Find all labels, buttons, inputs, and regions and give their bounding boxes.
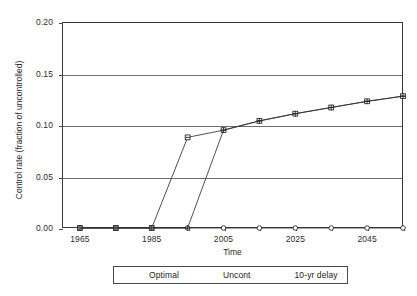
- legend-marker-cross-icon: [269, 271, 291, 280]
- plot-area: [62, 22, 403, 228]
- x-axis-tick: [117, 227, 118, 231]
- y-axis-tick: [59, 229, 63, 230]
- chart-figure: 0.000.050.100.150.20 1965198520052025204…: [0, 0, 417, 296]
- y-axis-tick: [59, 126, 63, 127]
- x-axis-tick-label: 2025: [286, 234, 305, 244]
- y-axis-tick-label: 0.20: [0, 17, 53, 27]
- y-axis-tick: [59, 178, 63, 179]
- gridline-horizontal: [63, 126, 402, 127]
- legend-item-label: 10-yr delay: [295, 270, 338, 280]
- x-axis-tick-label: 1985: [142, 234, 161, 244]
- y-axis-tick: [59, 23, 63, 24]
- legend-item-uncont[interactable]: Uncont: [197, 270, 251, 280]
- gridline-horizontal: [63, 178, 402, 179]
- x-axis-tick: [260, 227, 261, 231]
- x-axis-tick: [404, 227, 405, 231]
- x-axis-tick: [332, 227, 333, 231]
- x-axis-tick: [225, 227, 226, 231]
- x-axis-tick: [153, 227, 154, 231]
- y-axis-tick-label: 0.05: [0, 172, 53, 182]
- gridline-horizontal: [63, 75, 402, 76]
- x-axis-title: Time: [62, 247, 403, 257]
- legend-item-10-yr-delay[interactable]: 10-yr delay: [269, 270, 338, 280]
- x-axis-tick: [368, 227, 369, 231]
- legend-marker-square-icon: [123, 271, 145, 280]
- y-axis-tick-label: 0.00: [0, 223, 53, 233]
- legend-item-label: Optimal: [149, 270, 179, 280]
- y-axis-tick-label: 0.15: [0, 69, 53, 79]
- x-axis-tick-label: 2045: [357, 234, 376, 244]
- legend-item-optimal[interactable]: Optimal: [123, 270, 179, 280]
- y-axis-tick: [59, 75, 63, 76]
- legend-marker-circle-icon: [197, 271, 219, 280]
- y-axis-tick-label: 0.10: [0, 120, 53, 130]
- x-axis-tick-label: 1965: [70, 234, 89, 244]
- y-axis-title: Control rate (fraction of uncontrolled): [14, 27, 24, 233]
- x-axis-tick: [296, 227, 297, 231]
- chart-legend: OptimalUncont10-yr delay: [113, 266, 348, 284]
- x-axis-tick: [189, 227, 190, 231]
- x-axis-tick-label: 2005: [214, 234, 233, 244]
- legend-item-label: Uncont: [223, 270, 251, 280]
- x-axis-tick: [81, 227, 82, 231]
